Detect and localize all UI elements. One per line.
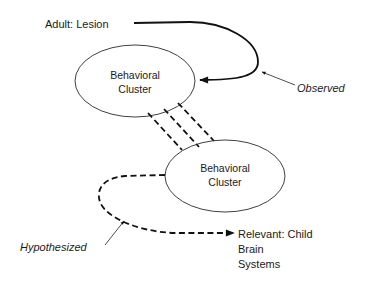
observed-pointer: [262, 72, 295, 85]
relevant-line3: Systems: [238, 258, 281, 270]
cluster-top-line1: Behavioral: [110, 69, 160, 81]
diagram-canvas: Adult: Lesion Observed Behavioral Cluste…: [0, 0, 366, 287]
connector-dash-2: [164, 109, 199, 147]
hypothesized-label: Hypothesized: [20, 241, 88, 253]
hypothesized-pointer: [105, 221, 124, 245]
observed-label: Observed: [297, 82, 346, 94]
adult-lesion-label: Adult: Lesion: [45, 18, 109, 30]
relevant-line1: Relevant: Child: [238, 228, 313, 240]
relevant-line2: Brain: [238, 243, 264, 255]
cluster-top-line2: Cluster: [118, 83, 152, 95]
behavioral-cluster-top: [75, 45, 195, 117]
connector-dash-3: [178, 103, 214, 141]
connector-dash-1: [148, 113, 182, 150]
cluster-bottom-line2: Cluster: [208, 176, 242, 188]
cluster-bottom-line1: Behavioral: [200, 162, 250, 174]
